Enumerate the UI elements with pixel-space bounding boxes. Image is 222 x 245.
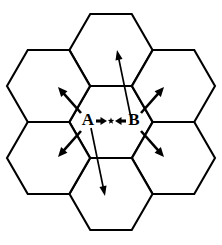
hexagon-lattice-figure: AB [0, 0, 222, 245]
label-a: A [82, 110, 95, 129]
figure-canvas: AB [0, 0, 222, 245]
label-b: B [128, 110, 139, 129]
